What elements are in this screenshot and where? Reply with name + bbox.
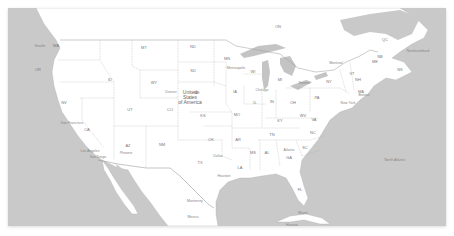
state-label-on[interactable]: ON <box>275 25 281 29</box>
state-label-nb[interactable]: NB <box>377 55 383 59</box>
state-label-or[interactable]: OR <box>35 68 41 72</box>
state-label-ga[interactable]: GA <box>286 156 292 160</box>
state-label-ok[interactable]: OK <box>208 138 214 142</box>
state-label-ns[interactable]: NS <box>397 68 403 72</box>
state-label-ia[interactable]: IA <box>233 90 237 94</box>
city-label[interactable]: Newfoundland <box>407 50 429 54</box>
state-label-nm[interactable]: NM <box>159 143 165 147</box>
state-label-nc[interactable]: NC <box>310 131 316 135</box>
state-label-tn[interactable]: TN <box>269 133 274 137</box>
city-label[interactable]: Phoenix <box>120 152 133 156</box>
state-label-az[interactable]: AZ <box>125 144 130 148</box>
state-label-ut[interactable]: UT <box>127 108 132 112</box>
city-label[interactable]: Houston <box>217 175 230 179</box>
city-label[interactable]: Los Angeles <box>80 150 99 154</box>
city-label[interactable]: Havana <box>286 224 298 226</box>
state-label-nv[interactable]: NV <box>61 101 67 105</box>
city-label[interactable]: San Diego <box>90 156 106 160</box>
city-label[interactable]: Miami <box>298 212 307 216</box>
map-frame[interactable]: WAORCANVIDMTWYUTAZNMCONDSDNEKSOKTXMNIAMO… <box>8 8 446 226</box>
state-label-vt[interactable]: VT <box>349 72 354 76</box>
city-label[interactable]: Mexico <box>187 216 198 220</box>
state-label-mi[interactable]: MI <box>278 78 282 82</box>
state-label-fl[interactable]: FL <box>298 188 303 192</box>
state-label-nh[interactable]: NH <box>355 78 361 82</box>
city-label[interactable]: Seattle <box>35 45 46 49</box>
state-label-tx[interactable]: TX <box>197 161 202 165</box>
city-label[interactable]: Atlanta <box>284 149 295 153</box>
country-label: United States of America <box>178 90 202 105</box>
state-label-wv[interactable]: WV <box>300 114 306 118</box>
city-label[interactable]: Chicago <box>256 89 269 93</box>
state-label-wi[interactable]: WI <box>251 70 256 74</box>
state-label-sd[interactable]: SD <box>190 69 196 73</box>
state-label-qc[interactable]: QC <box>382 38 388 42</box>
state-label-oh[interactable]: OH <box>290 101 296 105</box>
state-label-co[interactable]: CO <box>167 108 173 112</box>
city-label[interactable]: New York <box>341 102 356 106</box>
state-label-ar[interactable]: AR <box>235 138 241 142</box>
state-label-ks[interactable]: KS <box>200 114 205 118</box>
city-label[interactable]: Montreal <box>329 62 343 66</box>
state-label-nd[interactable]: ND <box>190 45 196 49</box>
state-label-il[interactable]: IL <box>253 101 256 105</box>
city-label[interactable]: Toronto <box>298 82 310 86</box>
state-label-in[interactable]: IN <box>270 100 274 104</box>
state-label-mn[interactable]: MN <box>224 57 230 61</box>
state-label-la[interactable]: LA <box>238 166 243 170</box>
state-label-sc[interactable]: SC <box>302 146 308 150</box>
state-label-al[interactable]: AL <box>265 151 270 155</box>
state-label-ca[interactable]: CA <box>84 128 90 132</box>
state-label-ky[interactable]: KY <box>277 119 282 123</box>
city-label[interactable]: Dallas <box>213 155 223 159</box>
map-canvas[interactable] <box>8 8 446 226</box>
state-label-pa[interactable]: PA <box>314 96 319 100</box>
state-label-mt[interactable]: MT <box>141 46 147 50</box>
state-label-wy[interactable]: WY <box>151 81 157 85</box>
city-label[interactable]: Denver <box>165 91 176 95</box>
state-label-mo[interactable]: MO <box>234 113 240 117</box>
city-label[interactable]: Minneapolis <box>227 67 246 71</box>
city-label[interactable]: Boston <box>359 94 370 98</box>
state-label-ms[interactable]: MS <box>250 151 256 155</box>
state-label-va[interactable]: VA <box>311 118 316 122</box>
state-label-me[interactable]: ME <box>372 60 378 64</box>
state-label-ny[interactable]: NY <box>326 80 332 84</box>
city-label[interactable]: North Atlantic <box>385 159 406 163</box>
state-label-id[interactable]: ID <box>108 78 112 82</box>
city-label[interactable]: San Francisco <box>61 122 83 126</box>
city-label[interactable]: Monterrey <box>187 200 203 204</box>
state-label-wa[interactable]: WA <box>53 44 59 48</box>
